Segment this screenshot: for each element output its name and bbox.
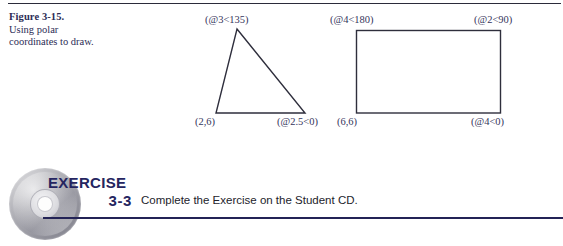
rectangle-top-right-label: (@2<90): [474, 14, 512, 26]
figure-illustration: (@3<135) (2,6) (@2.5<0) (@4<180) (@2<90)…: [0, 0, 563, 140]
exercise-instruction-text: Complete the Exercise on the Student CD.: [141, 194, 358, 206]
rectangle-bottom-left-label: (6,6): [337, 116, 357, 128]
exercise-badge-number: 3-3: [48, 192, 132, 209]
triangle-shape: [216, 29, 305, 113]
exercise-badge-word: EXERCISE: [48, 174, 126, 191]
triangle-bottom-left-label: (2,6): [195, 116, 215, 128]
rectangle-bottom-right-label: (@4<0): [471, 116, 504, 128]
triangle-apex-label: (@3<135): [205, 14, 249, 26]
exercise-callout: EXERCISE 3-3 Complete the Exercise on th…: [0, 160, 563, 246]
rectangle-shape: [357, 31, 501, 114]
rectangle-top-left-label: (@4<180): [330, 14, 374, 26]
exercise-divider-rule: [43, 217, 563, 219]
triangle-bottom-right-label: (@2.5<0): [277, 116, 318, 128]
